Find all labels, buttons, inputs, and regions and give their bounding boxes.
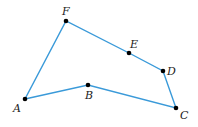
polygon-outline <box>25 21 176 108</box>
vertex-points <box>23 19 179 111</box>
point-c <box>174 106 179 111</box>
point-e <box>127 51 132 56</box>
polygon-diagram: A B C D E F <box>0 0 198 127</box>
point-f <box>64 19 69 24</box>
point-d <box>161 69 166 74</box>
label-f: F <box>61 5 70 18</box>
label-a: A <box>12 102 21 115</box>
point-a <box>23 97 28 102</box>
label-d: D <box>166 65 176 78</box>
label-e: E <box>129 38 138 51</box>
point-b <box>86 83 91 88</box>
label-c: C <box>180 109 189 122</box>
label-b: B <box>84 89 93 102</box>
